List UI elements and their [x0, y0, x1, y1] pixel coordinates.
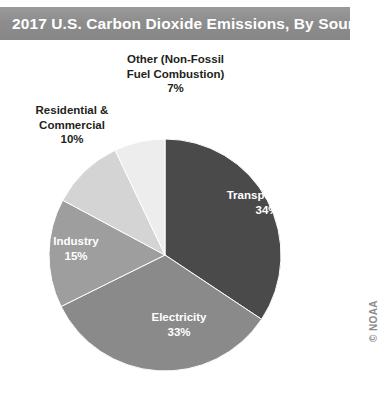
slice-label-transportation-line1: Transportation — [202, 188, 332, 203]
slice-value-other: 7% — [88, 81, 263, 96]
slice-value-electricity: 33% — [124, 325, 234, 340]
slice-label-other-line1: Other (Non-Fossil — [88, 52, 263, 67]
slice-value-industry: 15% — [26, 249, 126, 264]
slice-label-electricity-line1: Electricity — [124, 310, 234, 325]
slice-label-industry: Industry 15% — [26, 234, 126, 263]
slice-label-electricity: Electricity 33% — [124, 310, 234, 339]
chart-title-bar: 2017 U.S. Carbon Dioxide Emissions, By S… — [0, 7, 350, 40]
slice-label-industry-line1: Industry — [26, 234, 126, 249]
slice-label-residential-commercial-line1: Residential & — [2, 103, 142, 118]
slice-label-transportation: Transportation 34% — [202, 188, 332, 217]
slice-label-other: Other (Non-Fossil Fuel Combustion) 7% — [88, 52, 263, 96]
pie-chart: Other (Non-Fossil Fuel Combustion) 7% Re… — [0, 40, 369, 405]
slice-value-transportation: 34% — [202, 203, 332, 218]
page-title: 2017 U.S. Carbon Dioxide Emissions, By S… — [12, 15, 371, 33]
copyright-credit: © NOAA — [368, 300, 379, 342]
slice-label-residential-commercial: Residential & Commercial 10% — [2, 103, 142, 147]
slice-value-residential-commercial: 10% — [2, 132, 142, 147]
slice-label-residential-commercial-line2: Commercial — [2, 118, 142, 133]
slice-label-other-line2: Fuel Combustion) — [88, 67, 263, 82]
